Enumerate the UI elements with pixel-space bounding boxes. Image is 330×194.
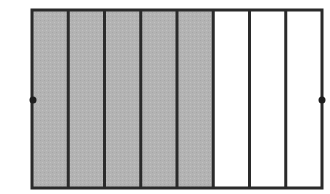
unshaded-part (213, 10, 249, 188)
unshaded-part (286, 10, 322, 188)
unshaded-part (250, 10, 286, 188)
fraction-bar-diagram (0, 0, 330, 194)
shaded-part (32, 10, 68, 188)
shaded-part (177, 10, 213, 188)
shaded-part (105, 10, 141, 188)
shaded-part (68, 10, 104, 188)
left-midpoint-dot (30, 97, 37, 104)
right-midpoint-dot (319, 97, 326, 104)
shaded-part (141, 10, 177, 188)
